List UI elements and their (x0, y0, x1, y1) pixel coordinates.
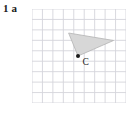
grid-diagram-svg: C (32, 9, 126, 103)
figure-page: 1a C (0, 0, 135, 115)
point-c-marker-dot (76, 54, 80, 58)
grid-figure: C (32, 9, 126, 103)
question-number: 1 (3, 2, 9, 14)
point-c-label: C (83, 57, 89, 67)
part-letter: a (12, 2, 18, 14)
shaded-dart-shape (69, 33, 114, 56)
question-label: 1a (3, 2, 17, 15)
